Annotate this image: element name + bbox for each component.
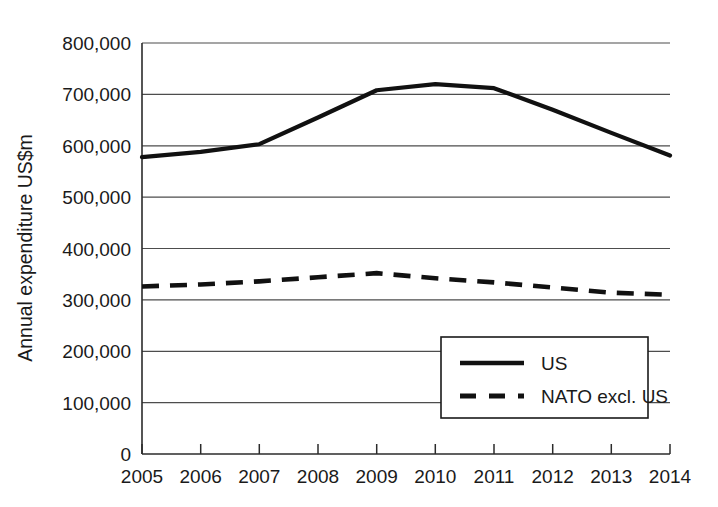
x-tick-label: 2007 [238, 466, 280, 487]
chart-container: Annual expenditure US$m 800,000 700,000 … [0, 0, 718, 507]
x-tick-label: 2005 [121, 466, 163, 487]
y-tick-label: 700,000 [62, 84, 131, 105]
x-tick-label: 2012 [532, 466, 574, 487]
x-axis-tick-labels: 2005 2006 2007 2008 2009 2010 2011 2012 … [121, 466, 692, 487]
y-tick-label: 600,000 [62, 136, 131, 157]
legend-label-us: US [541, 353, 567, 374]
chart-legend: US NATO excl. US [441, 337, 668, 418]
y-tick-label: 100,000 [62, 393, 131, 414]
series-line-nato-excl-us [142, 273, 670, 295]
y-tick-label: 400,000 [62, 239, 131, 260]
x-tick-label: 2009 [356, 466, 398, 487]
x-tick-label: 2014 [649, 466, 692, 487]
x-tick-label: 2011 [474, 466, 515, 487]
y-axis-title: Annual expenditure US$m [14, 134, 36, 362]
legend-label-nato-excl-us: NATO excl. US [541, 386, 668, 407]
x-tick-label: 2010 [414, 466, 456, 487]
y-tick-label: 200,000 [62, 341, 131, 362]
y-axis-tick-labels: 800,000 700,000 600,000 500,000 400,000 … [62, 33, 131, 465]
y-tick-label: 800,000 [62, 33, 131, 54]
x-tick-label: 2008 [297, 466, 339, 487]
x-tick-label: 2013 [590, 466, 632, 487]
x-tick-label: 2006 [180, 466, 222, 487]
y-tick-label: 300,000 [62, 290, 131, 311]
y-tick-label: 500,000 [62, 187, 131, 208]
line-chart: Annual expenditure US$m 800,000 700,000 … [0, 0, 718, 507]
x-axis-tick-marks [142, 444, 670, 454]
y-tick-label: 0 [120, 444, 131, 465]
